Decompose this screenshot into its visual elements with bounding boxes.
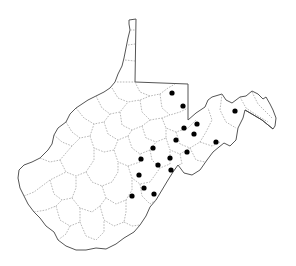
map-marker-dot xyxy=(167,155,172,160)
map-marker-dot xyxy=(155,162,160,167)
map-marker-dot xyxy=(213,139,218,144)
west-virginia-county-map xyxy=(0,0,296,266)
map-marker-dot xyxy=(151,191,156,196)
map-marker-dot xyxy=(194,121,199,126)
state-outline xyxy=(18,19,276,250)
map-marker-dot xyxy=(150,145,155,150)
map-marker-dot xyxy=(184,149,189,154)
map-marker-dot xyxy=(232,108,237,113)
map-marker-dot xyxy=(180,103,185,108)
map-marker-dot xyxy=(129,193,134,198)
map-marker-dot xyxy=(141,185,146,190)
map-canvas xyxy=(0,0,296,266)
map-marker-dot xyxy=(173,137,178,142)
map-marker-dot xyxy=(136,172,141,177)
map-marker-dot xyxy=(169,90,174,95)
map-marker-dot xyxy=(191,131,196,136)
map-marker-dot xyxy=(181,125,186,130)
map-marker-dot xyxy=(168,167,173,172)
map-marker-dot xyxy=(138,156,143,161)
